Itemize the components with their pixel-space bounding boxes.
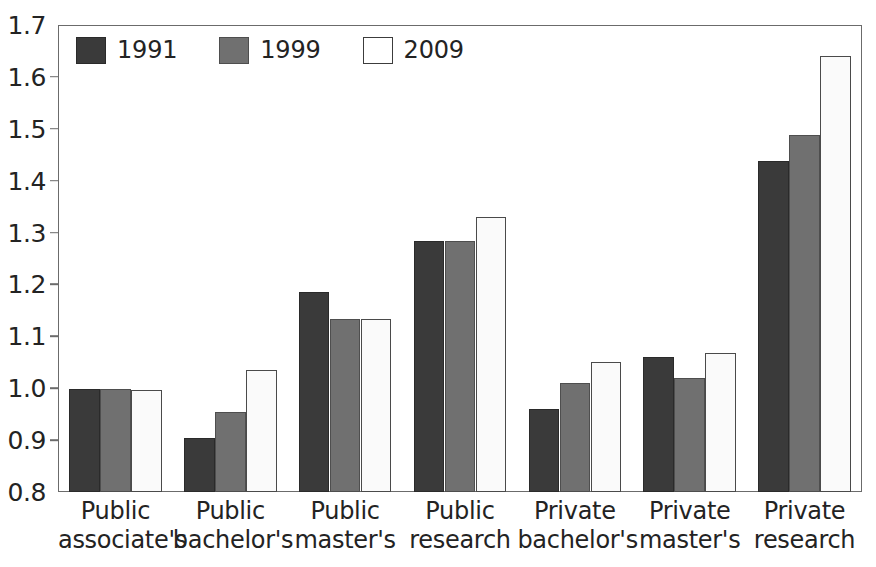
bar [674,378,705,492]
y-axis-tick-label: 1.3 [7,218,46,247]
bar [330,319,361,492]
bar [414,241,445,492]
bar [560,383,591,492]
bars-layer [58,25,862,492]
x-label-line-1: Public [403,497,518,526]
bar [445,241,476,492]
x-label-line-2: master's [632,526,747,555]
x-axis-category-label: Publicmaster's [288,497,403,555]
y-axis-tick-label: 1.4 [7,166,46,195]
x-label-line-2: bachelor's [173,526,288,555]
chart-legend: 199119992009 [76,36,506,64]
bar [215,412,246,492]
x-axis-category-label: Privatebachelor's [517,497,632,555]
x-label-line-1: Public [288,497,403,526]
legend-label: 1991 [117,36,177,64]
x-label-line-1: Private [632,497,747,526]
x-label-line-2: bachelor's [517,526,632,555]
y-axis-tick-label: 1.7 [7,11,46,40]
x-axis-category-label: Privatemaster's [632,497,747,555]
x-label-line-2: research [747,526,862,555]
bar [820,56,851,492]
bar [643,357,674,492]
legend-entry: 1999 [219,36,320,64]
bar [131,390,162,492]
cropped-title-remnant [62,0,762,4]
bar [361,319,392,492]
y-axis: 1.71.61.51.41.31.21.11.00.90.8 [0,0,58,567]
x-axis-category-labels: Publicassociate'sPublicbachelor'sPublicm… [58,497,862,567]
x-axis-category-label: Publicbachelor's [173,497,288,555]
x-axis-category-label: Publicresearch [403,497,518,555]
legend-label: 2009 [404,36,464,64]
x-label-line-1: Private [517,497,632,526]
bar [69,389,100,492]
bar [758,161,789,492]
legend-entry: 1991 [76,36,177,64]
x-label-line-2: master's [288,526,403,555]
y-axis-tick-label: 1.6 [7,62,46,91]
bar [476,217,507,492]
bar [591,362,622,492]
x-label-line-1: Public [173,497,288,526]
x-label-line-1: Private [747,497,862,526]
bar [299,292,330,492]
y-axis-tick-label: 1.0 [7,374,46,403]
legend-entry: 2009 [363,36,464,64]
x-axis-category-label: Privateresearch [747,497,862,555]
x-label-line-2: research [403,526,518,555]
bar [246,370,277,492]
medium-gray-swatch [219,37,249,64]
y-axis-tick-label: 1.2 [7,270,46,299]
bar-chart: 1.71.61.51.41.31.21.11.00.90.8 Publicass… [0,0,876,567]
y-axis-tick-label: 1.1 [7,322,46,351]
x-label-line-1: Public [58,497,173,526]
bar [789,135,820,492]
white-swatch [363,37,393,64]
bar [529,409,560,492]
x-label-line-2: associate's [58,526,173,555]
bar [184,438,215,492]
x-axis-category-label: Publicassociate's [58,497,173,555]
y-axis-tick-label: 1.5 [7,114,46,143]
bar [100,389,131,492]
bar [705,353,736,492]
legend-label: 1999 [260,36,320,64]
dark-gray-swatch [76,37,106,64]
y-axis-tick-label: 0.8 [7,478,46,507]
y-axis-tick-label: 0.9 [7,426,46,455]
